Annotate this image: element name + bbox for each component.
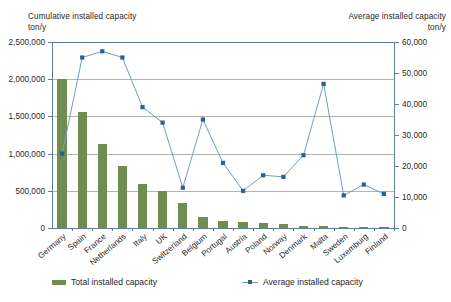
x-tick-mark xyxy=(314,228,315,231)
right-tick-mark xyxy=(395,104,399,105)
left-tick-mark xyxy=(48,191,52,192)
chart-legend: Total installed capacity Average install… xyxy=(0,277,451,295)
right-tick-label: 30,000 xyxy=(402,131,427,140)
x-tick-mark xyxy=(394,228,395,231)
top-border xyxy=(52,42,394,43)
x-tick-mark xyxy=(92,228,93,231)
left-tick-label: 2,000,000 xyxy=(0,75,45,84)
line-marker xyxy=(161,121,165,125)
capacity-chart: Cumulative installed capacity ton/y Aver… xyxy=(0,0,451,302)
right-tick-mark xyxy=(395,42,399,43)
x-tick-mark xyxy=(233,228,234,231)
x-tick-mark xyxy=(293,228,294,231)
bar xyxy=(339,227,348,228)
bar xyxy=(178,203,187,228)
right-tick-mark xyxy=(395,228,399,229)
line-marker xyxy=(382,192,386,196)
legend-item-total-installed-capacity: Total installed capacity xyxy=(52,277,157,287)
bar xyxy=(78,112,87,228)
right-tick-label: 20,000 xyxy=(402,162,427,171)
line-marker xyxy=(362,183,366,187)
x-tick-mark xyxy=(374,228,375,231)
gridline xyxy=(52,79,394,80)
right-tick-label: 0 xyxy=(402,224,407,233)
x-tick-mark xyxy=(153,228,154,231)
left-tick-label: 1,500,000 xyxy=(0,112,45,121)
bar xyxy=(138,184,147,228)
x-axis-line xyxy=(52,228,394,229)
x-tick-mark xyxy=(193,228,194,231)
bar xyxy=(118,166,127,228)
bar xyxy=(198,217,207,228)
line-marker xyxy=(140,105,144,109)
right-tick-label: 60,000 xyxy=(402,38,427,47)
line-marker xyxy=(261,173,265,177)
bar xyxy=(238,222,247,228)
line-marker xyxy=(342,193,346,197)
x-tick-mark xyxy=(112,228,113,231)
right-tick-mark xyxy=(395,166,399,167)
line-path xyxy=(62,51,384,195)
bar xyxy=(359,227,368,228)
line-marker xyxy=(201,117,205,121)
bar-swatch-icon xyxy=(52,280,66,285)
left-tick-label: 500,000 xyxy=(0,186,45,195)
x-tick-mark xyxy=(354,228,355,231)
bar xyxy=(218,221,227,228)
bar xyxy=(158,191,167,228)
bar xyxy=(319,226,328,228)
line-marker xyxy=(322,82,326,86)
left-axis-line xyxy=(52,42,53,229)
left-tick-label: 2,500,000 xyxy=(0,38,45,47)
right-tick-mark xyxy=(395,135,399,136)
left-tick-mark xyxy=(48,116,52,117)
right-tick-label: 40,000 xyxy=(402,100,427,109)
right-axis-title: Average installed capacity ton/y xyxy=(348,12,446,33)
right-tick-label: 10,000 xyxy=(402,193,427,202)
legend-item-average-installed-capacity: Average installed capacity xyxy=(242,277,363,287)
line-swatch-icon xyxy=(242,278,258,286)
line-marker xyxy=(221,161,225,165)
legend-label-total: Total installed capacity xyxy=(71,277,157,287)
legend-label-average: Average installed capacity xyxy=(263,277,363,287)
line-marker xyxy=(181,186,185,190)
left-tick-mark xyxy=(48,42,52,43)
right-tick-mark xyxy=(395,197,399,198)
x-tick-mark xyxy=(72,228,73,231)
line-marker xyxy=(281,175,285,179)
bar xyxy=(98,144,107,228)
x-tick-mark xyxy=(132,228,133,231)
line-marker xyxy=(100,49,104,53)
x-tick-mark xyxy=(173,228,174,231)
x-tick-mark xyxy=(213,228,214,231)
line-marker xyxy=(120,55,124,59)
left-tick-mark xyxy=(48,154,52,155)
right-tick-mark xyxy=(395,73,399,74)
bar xyxy=(57,79,66,228)
left-tick-label: 0 xyxy=(0,224,45,233)
left-tick-mark xyxy=(48,79,52,80)
right-tick-label: 50,000 xyxy=(402,69,427,78)
left-tick-mark xyxy=(48,228,52,229)
line-marker xyxy=(80,55,84,59)
bar xyxy=(259,223,268,228)
left-tick-label: 1,000,000 xyxy=(0,149,45,158)
x-tick-mark xyxy=(253,228,254,231)
x-tick-mark xyxy=(273,228,274,231)
bar xyxy=(379,227,388,228)
bar xyxy=(299,226,308,228)
gridline xyxy=(52,116,394,117)
bar xyxy=(279,224,288,228)
x-tick-mark xyxy=(334,228,335,231)
left-axis-title: Cumulative installed capacity ton/y xyxy=(28,12,136,33)
